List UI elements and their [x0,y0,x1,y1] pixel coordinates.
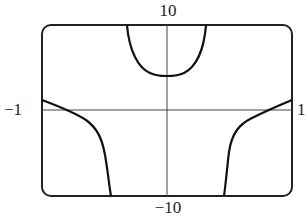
plot-area [0,0,308,220]
curve-left-branch [42,100,111,196]
curve-right-branch [224,100,292,196]
